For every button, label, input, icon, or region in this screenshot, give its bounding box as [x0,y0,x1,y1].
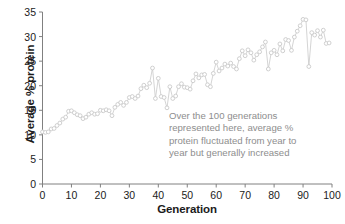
data-point [243,54,247,58]
data-point [240,49,244,53]
data-point [156,76,160,80]
data-point [180,82,184,86]
data-point [125,101,129,105]
data-point [168,85,172,89]
x-axis-title: Generation [42,203,332,215]
data-point [281,49,285,53]
data-point [249,51,253,55]
data-point [162,96,166,100]
data-point [298,24,302,28]
data-point [264,40,268,44]
data-point [194,72,198,76]
data-point [237,57,241,61]
data-point [258,50,262,54]
data-point [136,94,140,98]
data-point [139,87,143,91]
data-point [96,112,100,116]
chart-figure: Average % protein 05101520253035 0102030… [0,0,345,224]
data-point [278,42,282,46]
data-point [252,58,256,62]
data-point [154,97,158,101]
data-point [214,60,218,64]
data-point [151,66,155,70]
data-point [316,29,320,33]
data-point [145,86,149,90]
data-point [107,109,111,113]
data-point [287,39,291,43]
data-point [211,72,215,76]
data-point [110,114,114,118]
data-point [321,28,325,32]
data-point [203,73,207,77]
annotation-line-3: protein fluctuated from year to [169,135,337,147]
annotation-line-2: represented here, average % [169,122,337,134]
chart-annotation: Over the 100 generations represented her… [169,110,337,159]
data-point [313,33,317,37]
data-point [174,94,178,98]
data-point [319,35,323,39]
annotation-line-1: Over the 100 generations [169,110,337,122]
data-point [191,79,195,83]
data-point [229,61,233,65]
data-point [266,67,270,71]
data-point [188,87,192,91]
data-point [292,35,296,39]
data-point [58,121,62,125]
data-point [64,115,68,119]
x-tick-label: 100 [312,189,345,201]
data-point [290,48,294,52]
data-point [235,67,239,71]
data-point [304,18,308,22]
data-point [261,45,265,49]
data-point [307,65,311,69]
data-point [220,66,224,70]
data-point [295,29,299,33]
data-point [327,41,331,45]
data-point [272,48,276,52]
annotation-line-4: year but generally increased [169,147,337,159]
data-point [275,53,279,57]
data-point [148,81,152,85]
data-point [209,85,213,89]
